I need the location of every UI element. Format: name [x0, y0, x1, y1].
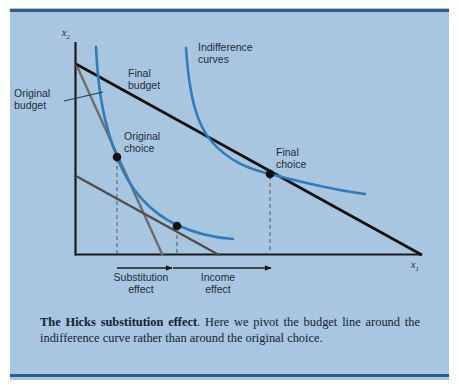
original-budget-leader-line	[64, 92, 103, 101]
x-axis-label: x1	[411, 259, 419, 276]
figure-caption: The Hicks substitution effect. Here we p…	[40, 315, 420, 346]
x-axis-label-subscript: 1	[415, 265, 419, 273]
y-axis-label-subscript: 2	[66, 33, 70, 41]
final-indifference-curve	[186, 48, 365, 194]
final-budget-line	[76, 64, 422, 255]
point-original-choice	[113, 153, 122, 162]
budget-lines	[76, 64, 422, 256]
final-choice-label: Final choice	[276, 147, 306, 170]
original-budget-label: Original budget	[14, 88, 50, 111]
point-substitution-choice	[173, 222, 182, 231]
y-axis-label: x2	[62, 27, 70, 44]
income-effect-label: Income effect	[193, 272, 243, 295]
caption-title: The Hicks substitution effect	[40, 315, 197, 329]
indifference-curves-label: Indifference curves	[198, 42, 253, 65]
final-budget-label: Final budget	[128, 68, 160, 91]
pivoted-budget-line	[76, 176, 219, 255]
figure-hicks-substitution-effect: x2 x1 Original budget Final budget Indif…	[0, 0, 459, 388]
original-choice-label: Original choice	[124, 131, 160, 154]
point-final-choice	[266, 170, 275, 179]
substitution-effect-label: Substitution effect	[110, 272, 172, 295]
